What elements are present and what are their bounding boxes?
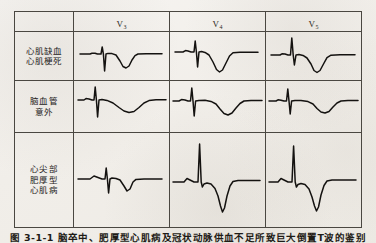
- figure-caption: 图 3-1-1 脑卒中、肥厚型心肌病及冠状动脉供血不足所致巨大倒置T波的鉴别: [0, 232, 376, 243]
- row-label-line: 心肌病: [15, 185, 73, 196]
- table-row-myocardial-ischemia-infarction: 心肌缺血 心肌梗死: [15, 32, 362, 81]
- column-header-v5: V5: [266, 12, 362, 32]
- lead-label-v4: V4: [212, 19, 222, 29]
- lead-label-v3: V3: [116, 19, 126, 29]
- ecg-comparison-figure: V3 V4 V5 心肌缺血 心肌梗死: [0, 0, 376, 243]
- waveform-apical-hcm-v4: [170, 133, 266, 228]
- ecg-comparison-table: V3 V4 V5 心肌缺血 心肌梗死: [14, 11, 362, 228]
- row-label-myocardial-ischemia-infarction: 心肌缺血 心肌梗死: [15, 32, 74, 81]
- waveform-cva-v5: [266, 81, 362, 133]
- waveform-ischemia-v4: [170, 32, 266, 81]
- row-label-line: 心尖部: [15, 164, 73, 175]
- row-label-cerebrovascular-accident: 脑血管 意外: [15, 81, 74, 133]
- row-label-line: 心肌梗死: [15, 56, 73, 67]
- table-row-apical-hypertrophic-cardiomyopathy: 心尖部 肥厚型 心肌病: [15, 133, 362, 228]
- waveform-ischemia-v3: [74, 32, 170, 81]
- row-label-apical-hypertrophic-cardiomyopathy: 心尖部 肥厚型 心肌病: [15, 133, 74, 228]
- row-label-line: 肥厚型: [15, 175, 73, 186]
- column-header-v4: V4: [170, 12, 266, 32]
- waveform-apical-hcm-v3: [74, 133, 170, 228]
- table-header-row: V3 V4 V5: [15, 12, 362, 32]
- waveform-apical-hcm-v5: [266, 133, 362, 228]
- waveform-cva-v3: [74, 81, 170, 133]
- table-corner-cell: [15, 12, 74, 32]
- waveform-cva-v4: [170, 81, 266, 133]
- column-header-v3: V3: [74, 12, 170, 32]
- table-row-cerebrovascular-accident: 脑血管 意外: [15, 81, 362, 133]
- row-label-line: 心肌缺血: [15, 46, 73, 57]
- lead-label-v5: V5: [308, 19, 318, 29]
- row-label-line: 脑血管: [15, 96, 73, 107]
- row-label-line: 意外: [15, 107, 73, 118]
- waveform-ischemia-v5: [266, 32, 362, 81]
